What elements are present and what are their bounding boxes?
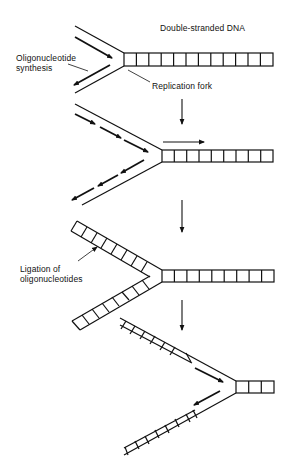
step-4-fork: [120, 318, 274, 455]
dna-replication-diagram: Double-stranded DNA Oligonucleotide synt…: [0, 0, 290, 473]
label-replication-fork: Replication fork: [152, 81, 212, 91]
step-2-rungs: [174, 150, 260, 162]
label-double-stranded-dna: Double-stranded DNA: [160, 23, 245, 33]
step-1-rungs: [136, 53, 260, 66]
label-oligonucleotide-synthesis-1: Oligonucleotide: [16, 53, 76, 63]
ligation-leader-arrow: [78, 247, 97, 261]
label-ligation-1: Ligation of: [20, 264, 60, 274]
fork-leader-line: [128, 70, 150, 82]
label-oligonucleotide-synthesis-2: synthesis: [16, 63, 52, 73]
step-2-fork: [72, 104, 273, 205]
step-3-fork: [71, 221, 274, 330]
label-ligation-2: oligonucleotides: [20, 274, 83, 284]
step-3-rungs: [174, 270, 261, 282]
synthesis-leader-line: [68, 64, 88, 71]
